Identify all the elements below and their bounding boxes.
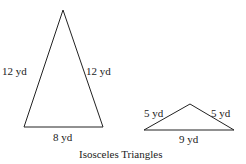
caption: Isosceles Triangles: [79, 148, 162, 160]
wide-left-side-label: 5 yd: [144, 107, 164, 119]
wide-base-label: 9 yd: [179, 133, 199, 145]
tall-left-side-label: 12 yd: [2, 65, 27, 77]
tall-base-label: 8 yd: [53, 131, 73, 143]
wide-right-side-label: 5 yd: [211, 107, 231, 119]
diagram-canvas: 12 yd 12 yd 8 yd 5 yd 5 yd 9 yd Isoscele…: [0, 0, 246, 164]
tall-right-side-label: 12 yd: [86, 65, 111, 77]
